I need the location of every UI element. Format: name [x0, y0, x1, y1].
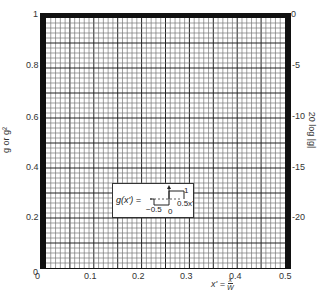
x-axis-label-numerator: x [228, 276, 234, 284]
x-axis-label-lhs: x' = [211, 279, 225, 289]
x-axis-label-denominator: W [227, 284, 234, 291]
x-tick-0.5: 0.5 [279, 272, 292, 281]
inset-label-zero: 0 [168, 208, 172, 216]
x-tick-0: 0 [35, 272, 40, 281]
graph-paper-grid [46, 18, 285, 268]
y-right-tick-minus5: -5 [292, 61, 300, 70]
y-right-tick-minus20: -20 [292, 213, 305, 222]
x-axis-label-fraction: x W [227, 276, 234, 291]
plot-frame [40, 13, 291, 269]
x-tick-0.2: 0.2 [132, 272, 145, 281]
y-left-tick-0.2: 0.2 [26, 213, 39, 222]
x-tick-0.1: 0.1 [84, 272, 97, 281]
inset-label-one: 1 [184, 187, 188, 195]
y-right-tick-minus10: -10 [292, 112, 305, 121]
y-left-tick-0.8: 0.8 [26, 61, 39, 70]
y-axis-right-label: 20 log |g| [307, 112, 317, 149]
inset-pulse-definition: g(x') = 1 −0.5 0 0.5x' [112, 183, 194, 218]
y-right-tick-minus15: -15 [292, 163, 305, 172]
inset-label-neg-half: −0.5 [146, 206, 162, 214]
x-tick-0.3: 0.3 [180, 272, 193, 281]
y-left-tick-0.4: 0.4 [26, 163, 39, 172]
y-left-tick-0.6: 0.6 [26, 113, 39, 122]
y-right-tick-0: 0 [291, 10, 296, 19]
y-left-tick-1: 1 [33, 10, 38, 19]
x-axis-label: x' = x W [211, 276, 234, 291]
y-axis-left-label: g or g² [1, 127, 11, 153]
inset-label-half-x: 0.5x' [177, 200, 194, 208]
